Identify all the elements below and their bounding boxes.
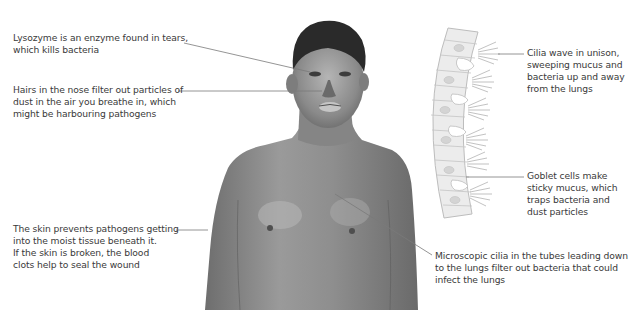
label-cilia-wave: Cilia wave in unison, sweeping mucus and… xyxy=(527,47,625,95)
label-nose-hairs: Hairs in the nose filter out particles o… xyxy=(13,84,183,120)
torso xyxy=(205,118,418,310)
epithelium-inset xyxy=(431,28,500,218)
label-goblet-cells: Goblet cells make sticky mucus, which tr… xyxy=(527,170,617,218)
label-microscopic-cilia: Microscopic cilia in the tubes leading d… xyxy=(435,250,628,286)
label-lysozyme: Lysozyme is an enzyme found in tears, wh… xyxy=(13,32,188,56)
boy-figure xyxy=(205,21,418,310)
label-skin: The skin prevents pathogens getting into… xyxy=(13,223,179,271)
